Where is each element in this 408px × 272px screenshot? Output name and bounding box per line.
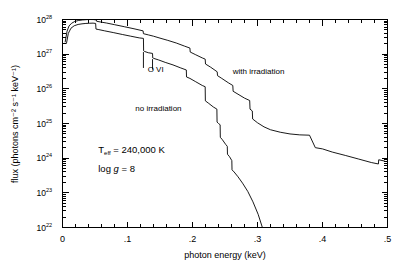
plot-frame [63, 20, 388, 228]
x-tick-label: .1 [124, 234, 132, 244]
axis-ticks [63, 20, 388, 228]
figure-container: 0.1.2.3.4.5 1022102310241025102610271028… [0, 0, 408, 272]
x-axis-title: photon energy (keV) [184, 250, 266, 260]
x-tick-label: .4 [319, 234, 327, 244]
data-curves [65, 20, 385, 228]
x-tick-label: .2 [189, 234, 197, 244]
x-tick-labels: 0.1.2.3.4.5 [60, 234, 391, 244]
with-irradiation-annotation: with irradiation [232, 67, 285, 76]
y-tick-label: 1026 [36, 83, 52, 94]
x-tick-label: .3 [254, 234, 262, 244]
plot-annotations: O VI with irradiation no irradiation Tef… [98, 65, 284, 174]
logg-prefix: log [98, 163, 113, 174]
y-axis-title: flux (photons cm⁻² s⁻¹ keV⁻¹) [10, 65, 20, 183]
y-tick-label: 1023 [36, 187, 52, 198]
y-tick-labels: 1022102310241025102610271028 [36, 14, 52, 233]
y-tick-label: 1025 [36, 118, 52, 129]
x-tick-label: 0 [60, 234, 65, 244]
curve-no-irradiation [66, 23, 262, 227]
x-tick-label: .5 [384, 234, 392, 244]
teff-value: = 240,000 K [111, 144, 166, 155]
logg-value: = 8 [119, 163, 135, 174]
y-tick-label: 1022 [36, 222, 52, 233]
y-tick-label: 1027 [36, 48, 52, 59]
logg-annotation: log g = 8 [98, 163, 135, 174]
ovi-annotation: O VI [148, 65, 164, 74]
no-irradiation-annotation: no irradiation [135, 104, 181, 113]
y-tick-label: 1024 [36, 152, 52, 163]
spectrum-chart: 0.1.2.3.4.5 1022102310241025102610271028… [0, 0, 408, 272]
teff-annotation: Teff = 240,000 K [98, 144, 165, 156]
y-tick-label: 1028 [36, 14, 52, 25]
curve-with-irradiation [65, 20, 385, 164]
